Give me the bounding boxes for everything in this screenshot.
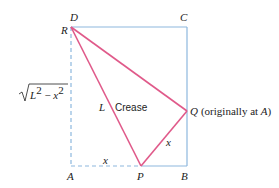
label-d: D [69, 11, 78, 23]
label-x-bottom: x [102, 154, 108, 166]
crease-line-rp [71, 27, 141, 166]
label-p: P [136, 170, 144, 182]
label-b: B [181, 170, 188, 182]
svg-text:L2 − x2: L2 − x2 [29, 84, 64, 101]
label-c: C [180, 11, 188, 23]
label-crease: Crease [115, 102, 148, 113]
label-q: Q(originally at A) [190, 105, 272, 118]
fold-edge-pq [141, 111, 187, 166]
label-sqrt-expression: L2 − x2 [19, 84, 68, 101]
label-x-right: x [165, 136, 171, 148]
label-r: R [60, 24, 68, 36]
fold-edge-rq [71, 27, 187, 111]
label-L: L [98, 101, 105, 113]
label-a: A [66, 170, 74, 182]
paper-fold-diagram: D C R A P B Q(originally at A) L Crease … [0, 0, 279, 188]
